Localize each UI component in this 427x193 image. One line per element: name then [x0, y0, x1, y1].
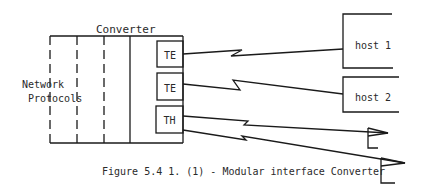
host-2-label: host 2 — [355, 92, 391, 103]
converter-label: Converter — [96, 23, 156, 36]
module-te-1-label: TE — [164, 50, 176, 61]
host-1-label: host 1 — [355, 40, 391, 51]
network-label: Network — [22, 79, 64, 90]
modular-interface-converter-diagram: Converter Network Protocols TE TE TH hos… — [0, 0, 427, 193]
module-th-label: TH — [163, 115, 175, 126]
link-th-terminal1 — [183, 116, 388, 133]
link-te2-host2 — [183, 80, 343, 94]
module-te-2-label: TE — [164, 83, 176, 94]
figure-caption: Figure 5.4 1. (1) - Modular interface Co… — [102, 166, 385, 177]
terminal-1-icon — [368, 128, 388, 148]
protocols-label: Protocols — [28, 93, 82, 104]
link-te1-host1 — [183, 49, 343, 56]
